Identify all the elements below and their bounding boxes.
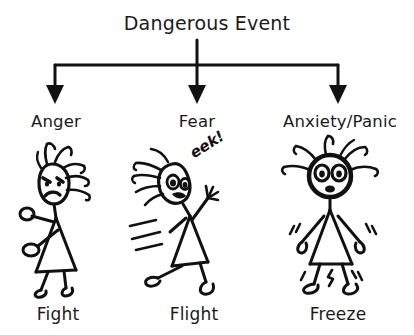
emotion-label-anxiety-panic: Anxiety/Panic (272, 112, 408, 131)
response-label-flight: Flight (138, 304, 250, 324)
diagram-canvas: Dangerous Event Anger Fear Anxiety/Panic (0, 0, 414, 335)
stick-figure-flight (128, 140, 248, 302)
stick-figure-fight (14, 138, 124, 298)
response-label-fight: Fight (6, 304, 110, 324)
emotion-label-fear: Fear (145, 112, 249, 131)
stick-figure-freeze (272, 134, 402, 300)
emotion-label-anger: Anger (4, 112, 108, 131)
response-label-freeze: Freeze (276, 304, 400, 324)
